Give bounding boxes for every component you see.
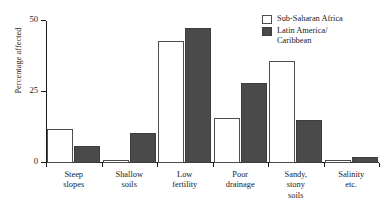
y-tick-label: 50 [29,14,38,25]
bar [269,61,295,163]
legend-item: Sub-Saharan Africa [262,14,390,24]
bar [296,120,322,163]
bar-group [47,21,100,163]
bar [130,133,156,163]
legend-item: Latin America/ Caribbean [262,26,390,46]
x-tick [157,163,158,167]
category-label: Salinity etc. [324,170,380,191]
category-label: Steep slopes [46,170,102,191]
x-tick [379,163,380,167]
category-label: Poor drainage [213,170,269,191]
x-tick [268,163,269,167]
x-tick [324,163,325,167]
category-labels: Steep slopesShallow soilsLow fertilityPo… [46,170,379,210]
bar [352,157,378,163]
bar [158,41,184,163]
bar [185,28,211,163]
bar [241,83,267,163]
legend-label: Sub-Saharan Africa [277,14,343,24]
legend-label: Latin America/ Caribbean [277,26,327,46]
bar-group [158,21,211,163]
x-tick [46,163,47,167]
y-tick-label: 25 [29,85,38,96]
category-label: Low fertility [157,170,213,191]
category-label: Shallow soils [102,170,158,191]
x-tick [213,163,214,167]
bar [103,160,129,163]
bar-group [103,21,156,163]
bar [325,160,351,163]
bar [47,129,73,163]
category-label: Sandy, stony soils [268,170,324,201]
y-tick: 25 [41,91,46,92]
y-tick: 50 [41,20,46,21]
legend-swatch [262,15,272,24]
bar [214,118,240,163]
x-tick [102,163,103,167]
chart-legend: Sub-Saharan AfricaLatin America/ Caribbe… [262,14,390,49]
legend-swatch [262,27,272,36]
bar-group [214,21,267,163]
bar [74,146,100,163]
y-axis-label: Percentage affected [14,1,23,121]
bar-chart-figure: Percentage affected 02550 Steep slopesSh… [0,0,390,210]
y-tick-label: 0 [34,156,38,167]
